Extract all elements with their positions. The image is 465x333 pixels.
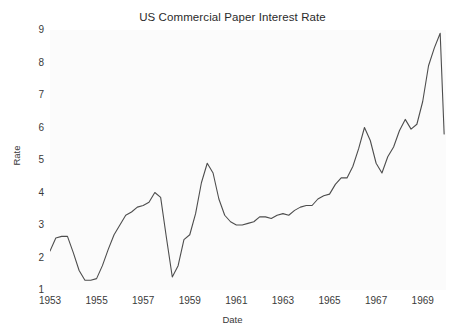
chart-figure: US Commercial Paper Interest Rate 123456…	[0, 0, 465, 333]
y-tick-label: 7	[22, 90, 44, 100]
y-axis-label: Rate	[11, 136, 22, 176]
series-line-commercial-paper-rate	[50, 30, 446, 290]
x-axis-ticks: 195319551957195919611963196519671969	[0, 296, 465, 310]
chart-title: US Commercial Paper Interest Rate	[0, 11, 465, 23]
y-tick-label: 9	[22, 25, 44, 35]
x-tick-label: 1957	[123, 296, 163, 306]
x-tick-label: 1967	[356, 296, 396, 306]
x-tick-label: 1961	[216, 296, 256, 306]
x-tick-label: 1959	[170, 296, 210, 306]
y-tick-label: 6	[22, 123, 44, 133]
y-axis-ticks: 123456789	[18, 0, 44, 333]
y-tick-label: 8	[22, 58, 44, 68]
x-tick-label: 1969	[403, 296, 443, 306]
y-tick-label: 5	[22, 155, 44, 165]
x-axis-label: Date	[0, 314, 465, 325]
x-tick-label: 1955	[77, 296, 117, 306]
x-tick-label: 1965	[310, 296, 350, 306]
y-tick-label: 4	[22, 188, 44, 198]
y-tick-label: 1	[22, 285, 44, 295]
y-tick-label: 3	[22, 220, 44, 230]
plot-area	[50, 30, 446, 290]
y-tick-label: 2	[22, 253, 44, 263]
x-tick-label: 1963	[263, 296, 303, 306]
x-tick-label: 1953	[30, 296, 70, 306]
